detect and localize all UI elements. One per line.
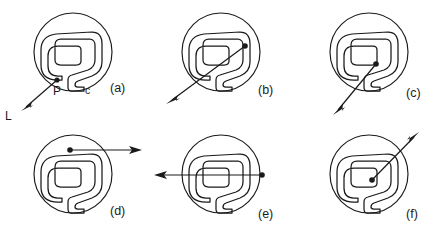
panel-a-caption: (a) bbox=[110, 81, 125, 95]
panel-a-point-label: P bbox=[53, 84, 61, 98]
panel-e-caption: (e) bbox=[258, 207, 273, 221]
panel-f-ray-arrowhead bbox=[407, 132, 419, 143]
panel-c-caption: (c) bbox=[406, 86, 421, 100]
panel-a-curve-label: c bbox=[85, 84, 90, 96]
panel-c-ray-line bbox=[338, 64, 376, 110]
panel-d-outer-circle bbox=[34, 135, 112, 213]
panel-f: (f) bbox=[296, 118, 444, 236]
figure-root: P c L (a) (b) (c) (d) (e) bbox=[0, 0, 444, 236]
panel-e-outer-circle bbox=[182, 135, 260, 213]
panel-a: P c L (a) bbox=[0, 0, 148, 120]
panel-c-ray-arrowhead bbox=[333, 104, 345, 115]
panel-b-spiral-curve bbox=[189, 32, 250, 91]
panel-c-spiral-curve bbox=[337, 32, 398, 91]
panel-d-caption: (d) bbox=[110, 204, 125, 218]
panel-b-outer-circle bbox=[182, 13, 260, 91]
panel-e-point-p bbox=[259, 172, 265, 178]
panel-c-outer-circle bbox=[330, 13, 408, 91]
panel-f-point-p bbox=[369, 177, 375, 183]
panel-b: (b) bbox=[148, 0, 296, 120]
panel-e: (e) bbox=[148, 118, 296, 236]
panel-f-caption: (f) bbox=[406, 207, 418, 221]
panel-f-outer-circle bbox=[330, 135, 408, 213]
panel-d: (d) bbox=[0, 118, 160, 236]
panel-c: (c) bbox=[296, 0, 444, 120]
panel-a-ray-arrowhead bbox=[21, 102, 33, 111]
panel-c-point-p bbox=[373, 61, 379, 67]
panel-b-caption: (b) bbox=[258, 83, 273, 97]
panel-a-spiral-curve bbox=[41, 32, 102, 91]
panel-b-point-p bbox=[242, 43, 248, 49]
panel-b-ray-line bbox=[172, 46, 245, 100]
panel-d-spiral-curve bbox=[41, 154, 102, 213]
panel-a-outer-circle bbox=[34, 13, 112, 91]
panel-d-point-p bbox=[67, 147, 73, 153]
panel-a-point-p bbox=[54, 77, 59, 82]
panel-e-spiral-curve bbox=[189, 154, 250, 213]
